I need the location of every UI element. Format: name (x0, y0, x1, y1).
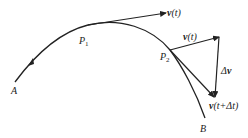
delta-v-label: Δv (220, 65, 232, 76)
point-b-label: B (200, 123, 206, 134)
point-p1-label: P1 (78, 35, 89, 48)
motion-diagram: A P1 P2 B v(t) v(t) Δv v(t+Δt) (0, 0, 248, 138)
velocity-p2-label: v(t) (183, 31, 198, 43)
trajectory-curve (15, 22, 205, 118)
point-a-label: A (10, 85, 18, 96)
point-p2-label: P2 (159, 51, 170, 64)
delta-v-vector (215, 37, 219, 97)
velocity-vector-next (170, 50, 214, 97)
velocity-p1-label: v(t) (167, 7, 182, 19)
velocity-vector-p1 (88, 13, 166, 25)
direction-arrow-icon (28, 58, 34, 66)
velocity-next-label: v(t+Δt) (209, 100, 239, 112)
